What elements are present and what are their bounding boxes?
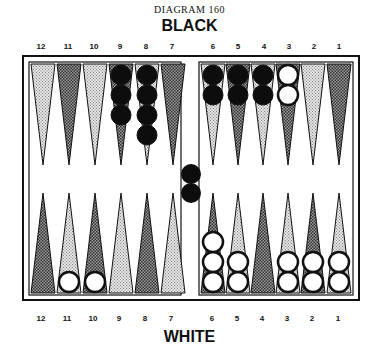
- black-checker[interactable]: [253, 65, 273, 85]
- point-number: 1: [328, 314, 348, 323]
- point-number: 9: [109, 314, 129, 323]
- white-checker[interactable]: [329, 272, 349, 292]
- white-checker[interactable]: [203, 232, 223, 252]
- black-checker[interactable]: [137, 105, 157, 125]
- point-number: 6: [202, 314, 222, 323]
- black-checker[interactable]: [137, 65, 157, 85]
- black-checker[interactable]: [228, 65, 248, 85]
- bottom-point-numbers: 12 11 10 9 8 7 6 5 4 3 2 1: [0, 314, 379, 326]
- black-checker[interactable]: [228, 85, 248, 105]
- white-label: WHITE: [0, 328, 379, 346]
- white-checker[interactable]: [329, 252, 349, 272]
- point-number: 10: [83, 314, 103, 323]
- black-checker-on-bar[interactable]: [181, 183, 201, 203]
- black-checker[interactable]: [203, 85, 223, 105]
- black-checker[interactable]: [111, 105, 131, 125]
- point-number: 4: [252, 314, 272, 323]
- point-number: 3: [277, 314, 297, 323]
- point-number: 11: [57, 314, 77, 323]
- white-checker[interactable]: [203, 272, 223, 292]
- white-checker[interactable]: [203, 252, 223, 272]
- black-checker[interactable]: [137, 85, 157, 105]
- white-checker[interactable]: [303, 272, 323, 292]
- white-checker[interactable]: [228, 272, 248, 292]
- point-number: 2: [302, 314, 322, 323]
- point-number: 8: [135, 314, 155, 323]
- white-checker[interactable]: [278, 85, 298, 105]
- white-checker[interactable]: [228, 252, 248, 272]
- backgammon-board: [0, 0, 379, 358]
- white-checker[interactable]: [85, 272, 105, 292]
- black-checker-on-bar[interactable]: [181, 164, 201, 184]
- white-checker[interactable]: [278, 272, 298, 292]
- black-checker[interactable]: [137, 125, 157, 145]
- white-checker[interactable]: [303, 252, 323, 272]
- white-checker[interactable]: [59, 272, 79, 292]
- point-number: 5: [227, 314, 247, 323]
- black-checker[interactable]: [111, 65, 131, 85]
- board-graphics: [23, 56, 359, 300]
- white-checker[interactable]: [278, 65, 298, 85]
- black-checker[interactable]: [203, 65, 223, 85]
- black-checker[interactable]: [253, 85, 273, 105]
- point-number: 12: [31, 314, 51, 323]
- white-checker[interactable]: [278, 252, 298, 272]
- point-number: 7: [161, 314, 181, 323]
- black-checker[interactable]: [111, 85, 131, 105]
